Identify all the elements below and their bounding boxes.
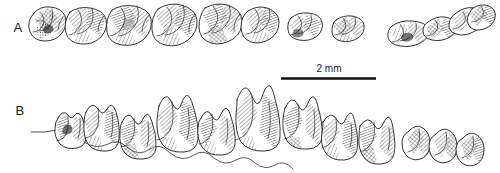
panel-label-a: A	[14, 20, 23, 35]
scale-bar-label: 2 mm	[317, 63, 342, 74]
tooth-lateral-t1	[55, 113, 86, 149]
figure-container: A 2 mm	[0, 0, 500, 173]
panel-label-b: B	[16, 103, 25, 118]
tooth-row-illustration: A 2 mm	[0, 0, 500, 173]
tooth-occlusal-p1	[288, 13, 323, 41]
